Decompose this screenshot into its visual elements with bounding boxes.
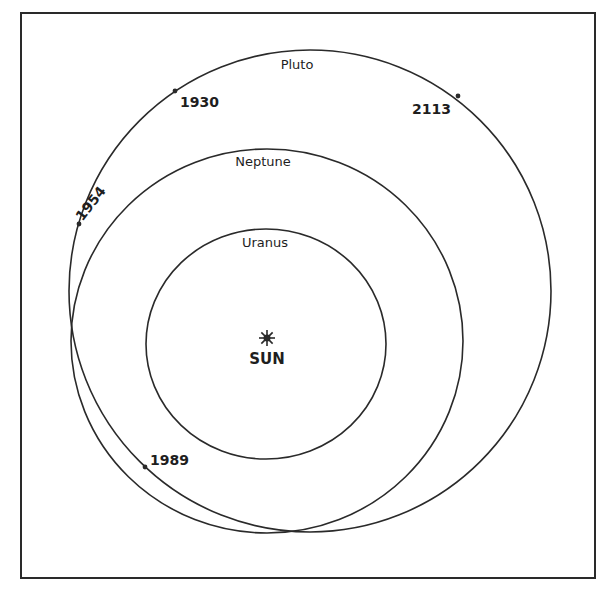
year-label-2113: 2113 bbox=[412, 102, 451, 116]
year-label-1930: 1930 bbox=[180, 95, 219, 109]
neptune-label: Neptune bbox=[235, 155, 291, 168]
diagram-frame bbox=[21, 13, 595, 578]
pluto-position-dot-1930 bbox=[173, 89, 178, 94]
sun-label: SUN bbox=[249, 352, 285, 367]
pluto-orbit bbox=[69, 50, 551, 532]
pluto-position-markers bbox=[77, 89, 461, 470]
year-label-1989: 1989 bbox=[150, 453, 189, 467]
orbit-diagram: Uranus Neptune Pluto SUN 1930 2113 1954 … bbox=[0, 0, 613, 589]
uranus-orbit bbox=[146, 229, 386, 459]
pluto-label: Pluto bbox=[281, 58, 314, 71]
uranus-label: Uranus bbox=[242, 236, 288, 249]
pluto-position-dot-1954 bbox=[77, 222, 82, 227]
orbit-diagram-svg bbox=[0, 0, 613, 589]
pluto-position-dot-2113 bbox=[456, 94, 461, 99]
pluto-position-dot-1989 bbox=[143, 465, 148, 470]
sun-icon bbox=[259, 330, 275, 346]
